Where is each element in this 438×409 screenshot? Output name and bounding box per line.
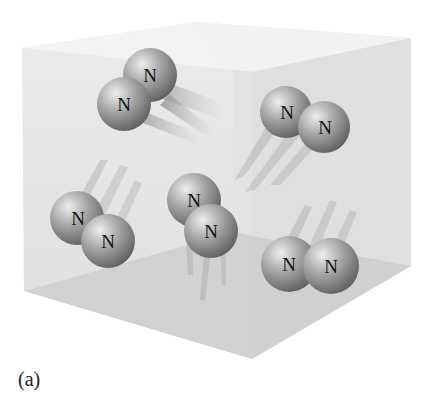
atom-label: N xyxy=(204,221,218,242)
atom-label: N xyxy=(117,94,131,115)
atom-label: N xyxy=(101,231,115,252)
gas-container-diagram: N N N N N N N N N N xyxy=(0,0,438,409)
atom-label: N xyxy=(143,65,157,86)
atom-label: N xyxy=(71,208,85,229)
atom-label: N xyxy=(282,254,296,275)
box-front-right-face xyxy=(252,38,411,359)
atom-label: N xyxy=(324,256,338,277)
atom-label: N xyxy=(318,117,332,138)
atom-label: N xyxy=(280,102,294,123)
figure-caption: (a) xyxy=(18,368,40,391)
